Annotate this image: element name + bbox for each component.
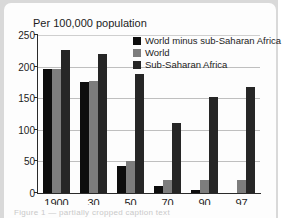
figure-card: Per 100,000 population 050100150200250 1… [0, 0, 278, 218]
bar [89, 81, 98, 193]
bar [80, 82, 89, 193]
bar [163, 180, 172, 193]
figure-caption-strip: Figure 1 — partially cropped caption tex… [4, 205, 276, 218]
bar-group [75, 35, 112, 193]
y-tick-label: 250 [18, 30, 35, 41]
bar [154, 186, 163, 193]
bar [61, 50, 70, 193]
y-tick-label: 50 [24, 156, 35, 167]
legend-item: World [133, 47, 278, 58]
legend-item: World minus sub-Saharan Africa [133, 35, 278, 46]
bar [52, 69, 61, 194]
bar [209, 97, 218, 193]
bar-group [38, 35, 75, 193]
y-tick-label: 200 [18, 61, 35, 72]
chart-title: Per 100,000 population [33, 17, 147, 29]
legend-swatch [133, 61, 141, 69]
y-tick-label: 0 [29, 188, 35, 199]
bar [98, 54, 107, 193]
chart-legend: World minus sub-Saharan AfricaWorldSub-S… [133, 35, 278, 70]
legend-label: World [145, 48, 170, 58]
bar [43, 69, 52, 193]
y-tick-label: 150 [18, 93, 35, 104]
chart-panel: Per 100,000 population 050100150200250 1… [4, 3, 276, 205]
legend-item: Sub-Saharan Africa [133, 59, 278, 70]
bar [117, 166, 126, 193]
bar [246, 87, 255, 193]
gridline [38, 193, 260, 194]
bar [200, 180, 209, 193]
legend-swatch [133, 37, 141, 45]
bar [237, 180, 246, 193]
legend-label: World minus sub-Saharan Africa [145, 36, 278, 46]
legend-swatch [133, 49, 141, 57]
caption-ghost-text: Figure 1 — partially cropped caption tex… [14, 208, 170, 217]
legend-label: Sub-Saharan Africa [145, 60, 227, 70]
bar [126, 161, 135, 193]
bar [191, 190, 200, 193]
bar [135, 74, 144, 193]
bar [172, 123, 181, 193]
y-tick-label: 100 [18, 124, 35, 135]
